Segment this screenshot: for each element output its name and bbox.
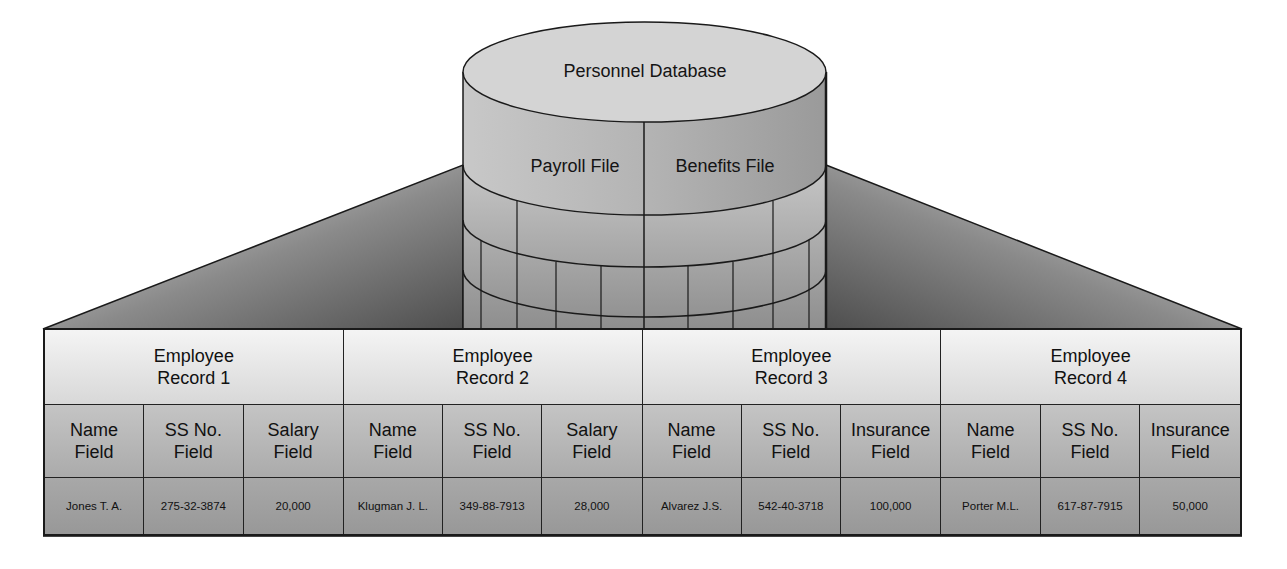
field-headers: Name Field SS No. Field Insurance Field	[941, 405, 1240, 478]
name-value: Jones T. A.	[45, 478, 144, 534]
payroll-file-label: Payroll File	[505, 155, 645, 177]
field-headers: Name Field SS No. Field Salary Field	[45, 405, 343, 478]
salary-value: 20,000	[244, 478, 343, 534]
insurance-field-header: Insurance Field	[1140, 405, 1240, 477]
ssn-value: 617-87-7915	[1041, 478, 1141, 534]
record-title: Employee Record 4	[941, 330, 1240, 405]
employee-record-2: Employee Record 2 Name Field SS No. Fiel…	[344, 330, 643, 534]
name-field-header: Name Field	[45, 405, 144, 477]
insurance-value: 50,000	[1140, 478, 1240, 534]
ssn-field-header: SS No. Field	[144, 405, 243, 477]
employee-record-3: Employee Record 3 Name Field SS No. Fiel…	[643, 330, 942, 534]
left-projection-wing	[43, 165, 463, 329]
field-values: Jones T. A. 275-32-3874 20,000	[45, 478, 343, 534]
field-headers: Name Field SS No. Field Salary Field	[344, 405, 642, 478]
employee-record-1: Employee Record 1 Name Field SS No. Fiel…	[45, 330, 344, 534]
database-title: Personnel Database	[540, 60, 750, 82]
name-field-header: Name Field	[344, 405, 443, 477]
ssn-field-header: SS No. Field	[443, 405, 542, 477]
name-value: Klugman J. L.	[344, 478, 443, 534]
salary-field-header: Salary Field	[244, 405, 343, 477]
record-title: Employee Record 3	[643, 330, 941, 405]
name-value: Porter M.L.	[941, 478, 1041, 534]
field-values: Klugman J. L. 349-88-7913 28,000	[344, 478, 642, 534]
benefits-file-label: Benefits File	[650, 155, 800, 177]
insurance-field-header: Insurance Field	[841, 405, 940, 477]
field-values: Porter M.L. 617-87-7915 50,000	[941, 478, 1240, 534]
insurance-value: 100,000	[841, 478, 940, 534]
ssn-value: 275-32-3874	[144, 478, 243, 534]
name-field-header: Name Field	[941, 405, 1041, 477]
field-values: Alvarez J.S. 542-40-3718 100,000	[643, 478, 941, 534]
record-title: Employee Record 2	[344, 330, 642, 405]
field-headers: Name Field SS No. Field Insurance Field	[643, 405, 941, 478]
name-value: Alvarez J.S.	[643, 478, 742, 534]
right-projection-wing	[826, 165, 1242, 329]
record-title: Employee Record 1	[45, 330, 343, 405]
ssn-field-header: SS No. Field	[1041, 405, 1141, 477]
ssn-value: 542-40-3718	[742, 478, 841, 534]
ssn-field-header: SS No. Field	[742, 405, 841, 477]
salary-field-header: Salary Field	[542, 405, 641, 477]
employee-record-4: Employee Record 4 Name Field SS No. Fiel…	[941, 330, 1240, 534]
name-field-header: Name Field	[643, 405, 742, 477]
ssn-value: 349-88-7913	[443, 478, 542, 534]
salary-value: 28,000	[542, 478, 641, 534]
employee-records-table: Employee Record 1 Name Field SS No. Fiel…	[43, 328, 1242, 536]
